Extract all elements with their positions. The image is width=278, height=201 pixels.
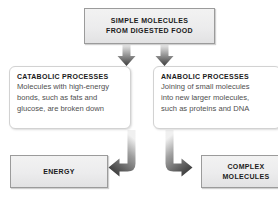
box-energy-text: ENERGY	[43, 167, 75, 177]
arrow-top-to-anabolic	[156, 45, 174, 66]
box-complex-molecules-line2: MOLECULES	[222, 172, 269, 182]
panel-anabolic-line-1: Joining of small molecules	[161, 82, 273, 93]
panel-catabolic-line-3: glucose, are broken down	[17, 104, 123, 115]
panel-anabolic-line-3: such as proteins and DNA	[161, 104, 273, 115]
panel-catabolic-processes: CATABOLIC PROCESSES Molecules with high-…	[9, 66, 131, 129]
box-simple-molecules-line1: SIMPLE MOLECULES	[106, 16, 193, 26]
box-complex-molecules: COMPLEX MOLECULES	[201, 155, 278, 188]
panel-catabolic-title: CATABOLIC PROCESSES	[17, 73, 123, 80]
panel-anabolic-body: Joining of small molecules into new larg…	[161, 82, 273, 115]
arrow-catabolic-to-energy	[109, 130, 136, 177]
box-complex-molecules-text: COMPLEX MOLECULES	[222, 162, 269, 182]
box-simple-molecules-text: SIMPLE MOLECULES FROM DIGESTED FOOD	[106, 16, 193, 36]
panel-anabolic-line-2: into new larger molecules,	[161, 93, 273, 104]
box-simple-molecules: SIMPLE MOLECULES FROM DIGESTED FOOD	[84, 8, 215, 44]
panel-catabolic-body: Molecules with high-energy bonds, such a…	[17, 82, 123, 115]
arrow-anabolic-to-complex	[166, 130, 193, 177]
box-complex-molecules-line1: COMPLEX	[222, 162, 269, 172]
box-simple-molecules-line2: FROM DIGESTED FOOD	[106, 26, 193, 36]
panel-catabolic-line-1: Molecules with high-energy	[17, 82, 123, 93]
panel-catabolic-line-2: bonds, such as fats and	[17, 93, 123, 104]
diagram-canvas: SIMPLE MOLECULES FROM DIGESTED FOOD CATA…	[0, 0, 278, 201]
panel-anabolic-title: ANABOLIC PROCESSES	[161, 73, 273, 80]
box-energy-line1: ENERGY	[43, 167, 75, 177]
arrow-top-to-catabolic	[118, 45, 136, 66]
panel-anabolic-processes: ANABOLIC PROCESSES Joining of small mole…	[153, 66, 278, 129]
box-energy: ENERGY	[10, 155, 108, 188]
